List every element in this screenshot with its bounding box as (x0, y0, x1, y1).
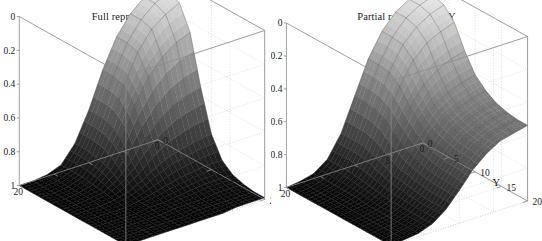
z-tick-label: 0.2 (3, 46, 15, 56)
x-tick-label: 5 (385, 156, 390, 166)
z-tick-label: 0.8 (271, 150, 283, 160)
x-tick-label: 15 (315, 178, 325, 188)
y-tick-mark (523, 201, 528, 203)
panel-a-surface-plot: 10.80.60.40.202015105001020XYf(X,Y) (0, 0, 271, 241)
y-tick-label: 10 (480, 168, 490, 178)
z-tick-label: 0.8 (3, 147, 15, 157)
y-tick-label: 5 (454, 154, 459, 164)
y-tick-label: 0 (428, 139, 433, 149)
y-axis-label: Y (492, 177, 500, 188)
surface-mesh (19, 0, 264, 241)
y-axis-label: Y (229, 175, 237, 186)
y-tick-label: 15 (506, 183, 516, 193)
y-tick-label: 0 (163, 136, 168, 146)
z-tick-label: 0.6 (271, 117, 283, 127)
x-axis-label: X (349, 178, 357, 189)
x-tick-label: 15 (48, 176, 58, 186)
x-tick-label: 10 (349, 167, 359, 177)
z-tick-label: 0.4 (3, 79, 15, 89)
panel-b-surface-plot: 10.80.60.40.202015105005101520XY (271, 0, 542, 241)
x-tick-label: 10 (83, 164, 93, 174)
surface-mesh (286, 0, 527, 241)
x-tick-label: 20 (281, 189, 291, 199)
y-tick-mark (260, 199, 265, 201)
figure-container: Full repression by Y 10.80.60.40.2020151… (0, 0, 542, 241)
x-tick-label: 20 (14, 187, 24, 197)
z-tick-label: 0.4 (271, 84, 283, 94)
z-tick-label: 0 (278, 18, 283, 28)
x-axis-label: X (83, 176, 91, 187)
panel-a-caption: (a) (0, 223, 271, 233)
x-tick-label: 5 (120, 153, 125, 163)
panel-b: Partial repression by Y 10.80.60.40.2020… (271, 0, 542, 241)
x-tick-label: 0 (419, 144, 424, 154)
z-tick-label: 0 (11, 12, 16, 22)
y-tick-label: 10 (216, 166, 226, 176)
z-tick-label: 0.2 (271, 51, 283, 61)
y-tick-label: 20 (533, 197, 542, 207)
x-tick-label: 0 (155, 141, 160, 151)
panel-b-caption: (b) (271, 223, 542, 233)
z-tick-label: 0.6 (3, 113, 15, 123)
wall-corner-edge (19, 17, 126, 77)
panel-a: Full repression by Y 10.80.60.40.2020151… (0, 0, 271, 241)
